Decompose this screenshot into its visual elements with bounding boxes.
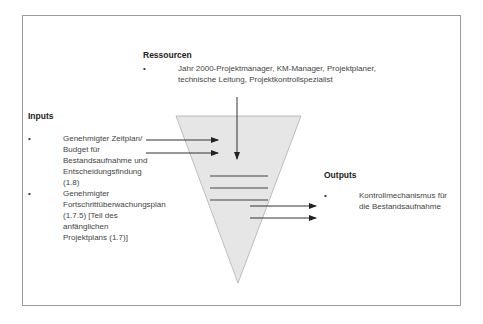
inputs-heading: Inputs bbox=[28, 111, 54, 121]
outputs-item: Kontrollmechanismus für die Bestandsaufn… bbox=[324, 190, 459, 212]
inputs-list: Genehmigter Zeitplan/ Budget für Bestand… bbox=[28, 133, 153, 243]
inputs-item: Genehmigter Fortschrittüberwachungsplan … bbox=[28, 188, 153, 243]
outputs-list: Kontrollmechanismus für die Bestandsaufn… bbox=[324, 190, 459, 212]
inputs-item: Genehmigter Zeitplan/ Budget für Bestand… bbox=[28, 133, 153, 188]
resources-heading: Ressourcen bbox=[143, 50, 192, 60]
resources-list: Jahr 2000-Projektmanager, KM-Manager, Pr… bbox=[143, 63, 383, 85]
resources-item: Jahr 2000-Projektmanager, KM-Manager, Pr… bbox=[143, 63, 383, 85]
outputs-heading: Outputs bbox=[324, 170, 357, 180]
